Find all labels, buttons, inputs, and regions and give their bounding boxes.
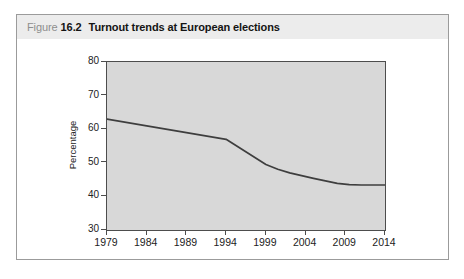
y-tick-mark bbox=[101, 94, 106, 95]
figure-header: Figure16.2Turnout trends at European ele… bbox=[17, 15, 448, 39]
turnout-series-path bbox=[107, 119, 385, 185]
y-tick-label: 50 bbox=[73, 157, 99, 167]
plot-area bbox=[106, 61, 386, 231]
y-tick-mark bbox=[101, 61, 106, 62]
figure-box: Figure16.2Turnout trends at European ele… bbox=[16, 14, 449, 260]
figure-title: Turnout trends at European elections bbox=[89, 21, 280, 33]
x-tick-label: 1979 bbox=[86, 236, 126, 248]
x-tick-mark bbox=[106, 230, 107, 235]
y-tick-label: 30 bbox=[73, 224, 99, 234]
x-tick-label: 1994 bbox=[205, 236, 245, 248]
y-tick-mark bbox=[101, 128, 106, 129]
x-tick-label: 1989 bbox=[165, 236, 205, 248]
x-tick-mark bbox=[146, 230, 147, 235]
x-tick-mark bbox=[344, 230, 345, 235]
turnout-trend-line bbox=[107, 62, 385, 230]
x-tick-mark bbox=[384, 230, 385, 235]
x-tick-label: 2014 bbox=[364, 236, 404, 248]
x-tick-mark bbox=[225, 230, 226, 235]
y-tick-label: 60 bbox=[73, 123, 99, 133]
y-tick-label: 80 bbox=[73, 56, 99, 66]
y-tick-label: 40 bbox=[73, 190, 99, 200]
y-tick-mark bbox=[101, 161, 106, 162]
x-tick-label: 2004 bbox=[285, 236, 325, 248]
x-tick-mark bbox=[305, 230, 306, 235]
y-tick-mark bbox=[101, 195, 106, 196]
y-tick-label: 70 bbox=[73, 90, 99, 100]
x-tick-mark bbox=[185, 230, 186, 235]
figure-label: Figure bbox=[27, 21, 58, 33]
x-tick-label: 1999 bbox=[245, 236, 285, 248]
x-tick-label: 1984 bbox=[126, 236, 166, 248]
x-tick-label: 2009 bbox=[324, 236, 364, 248]
x-tick-mark bbox=[265, 230, 266, 235]
figure-number: 16.2 bbox=[61, 21, 82, 33]
